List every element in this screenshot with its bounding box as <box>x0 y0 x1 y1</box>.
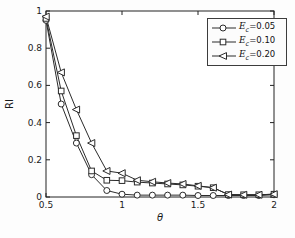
circle-marker <box>134 192 140 198</box>
square-marker <box>119 178 125 184</box>
x-tick-label: 2 <box>271 200 277 210</box>
square-marker <box>89 168 95 174</box>
circle-marker <box>119 191 125 197</box>
legend-label: Ec=0.05 <box>239 22 275 33</box>
triangle-left-marker-icon <box>212 51 236 61</box>
legend-label: Ec=0.10 <box>239 36 275 47</box>
legend-entry-ec-0-20: Ec=0.20 <box>212 49 284 63</box>
circle-marker <box>165 192 171 198</box>
y-tick-label: 0.6 <box>28 80 43 90</box>
square-marker <box>74 133 80 139</box>
legend-var: E <box>239 35 246 45</box>
x-axis-label: θ <box>157 212 163 223</box>
circle-marker <box>73 140 79 146</box>
legend-label: Ec=0.20 <box>239 50 275 61</box>
legend-entry-ec-0-10: Ec=0.10 <box>212 35 284 49</box>
x-tick-label: 1.5 <box>191 200 205 210</box>
circle-marker-icon <box>212 23 236 33</box>
circle-marker <box>210 193 216 199</box>
figure: 0.511.5200.20.40.60.81θRI Ec=0.05 Ec=0.1… <box>0 0 295 238</box>
legend-box: Ec=0.05 Ec=0.10 Ec=0.20 <box>207 18 287 66</box>
y-tick-label: 0.2 <box>28 155 42 165</box>
square-marker <box>58 88 64 94</box>
legend-value: =0.10 <box>249 35 275 45</box>
circle-marker <box>104 187 110 193</box>
legend-entry-ec-0-05: Ec=0.05 <box>212 21 284 35</box>
square-marker-icon <box>212 37 236 47</box>
y-tick-label: 0 <box>36 192 42 202</box>
legend-var: E <box>239 21 246 31</box>
circle-marker <box>195 193 201 199</box>
legend-value: =0.20 <box>249 49 275 59</box>
square-marker <box>104 177 110 183</box>
circle-marker <box>58 101 64 107</box>
y-axis-label: RI <box>4 99 15 109</box>
y-tick-label: 0.8 <box>28 43 43 53</box>
circle-marker <box>149 192 155 198</box>
y-tick-label: 0.4 <box>28 118 43 128</box>
legend-value: =0.05 <box>249 21 275 31</box>
y-tick-label: 1 <box>36 6 42 16</box>
legend-var: E <box>239 49 246 59</box>
circle-marker <box>180 192 186 198</box>
x-tick-label: 1 <box>119 200 125 210</box>
